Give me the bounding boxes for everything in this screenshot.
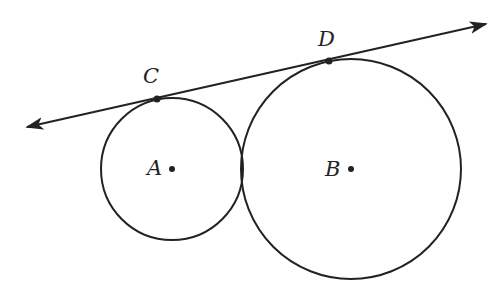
point-c bbox=[154, 96, 161, 103]
diagram-canvas: C D A B bbox=[0, 0, 497, 300]
point-a-center bbox=[169, 166, 175, 172]
label-a: A bbox=[147, 158, 162, 179]
label-b: B bbox=[325, 159, 340, 180]
point-d bbox=[326, 58, 333, 65]
label-c: C bbox=[143, 66, 159, 87]
label-d: D bbox=[318, 29, 335, 50]
geometry-figure bbox=[0, 0, 497, 300]
point-b-center bbox=[348, 166, 354, 172]
